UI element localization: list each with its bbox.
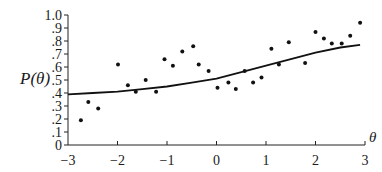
y-tick-label: .8 — [52, 34, 63, 49]
data-point — [322, 36, 326, 40]
data-point — [86, 100, 90, 104]
data-point — [330, 42, 334, 46]
data-point — [154, 90, 158, 94]
data-point — [314, 30, 318, 34]
x-tick-label: −1 — [160, 153, 175, 168]
data-point — [134, 90, 138, 94]
data-point — [340, 42, 344, 46]
data-point — [234, 87, 238, 91]
x-axis-label: θ — [369, 129, 377, 145]
data-point — [243, 69, 247, 73]
data-point — [96, 107, 100, 111]
y-tick-label: .9 — [52, 21, 63, 36]
y-tick-label: 1.0 — [45, 8, 63, 23]
y-tick-label: .7 — [52, 47, 63, 62]
data-point — [180, 49, 184, 53]
item-characteristic-chart: 0.1.2.3.4.5.6.7.8.91.0−3−2−10123θ — [0, 0, 382, 172]
data-point — [207, 69, 211, 73]
y-tick-label: .2 — [52, 112, 63, 127]
data-point — [197, 62, 201, 66]
x-tick-label: −3 — [61, 153, 76, 168]
x-tick-label: −2 — [110, 153, 125, 168]
x-tick-label: 0 — [213, 153, 220, 168]
data-point — [144, 78, 148, 82]
y-axis-label: P(θ) — [20, 69, 50, 89]
data-point — [191, 44, 195, 48]
data-point — [171, 64, 175, 68]
icc-curve — [68, 45, 360, 94]
x-tick-label: 2 — [312, 153, 319, 168]
data-point — [358, 21, 362, 25]
data-point — [126, 83, 130, 87]
y-tick-label: .1 — [52, 125, 63, 140]
chart-canvas: 0.1.2.3.4.5.6.7.8.91.0−3−2−10123θ — [0, 0, 382, 172]
y-tick-label: .4 — [52, 86, 63, 101]
data-point — [216, 86, 220, 90]
data-point — [348, 34, 352, 38]
data-point — [226, 81, 230, 85]
data-point — [269, 47, 273, 51]
y-tick-label: .5 — [52, 73, 63, 88]
data-point — [79, 118, 83, 122]
data-point — [163, 57, 167, 61]
x-tick-label: 1 — [263, 153, 270, 168]
y-tick-label: 0 — [55, 138, 62, 153]
x-tick-label: 3 — [362, 153, 369, 168]
data-point — [260, 75, 264, 79]
data-point — [287, 40, 291, 44]
data-point — [116, 62, 120, 66]
data-point — [251, 81, 255, 85]
y-tick-label: .3 — [52, 99, 63, 114]
y-tick-label: .6 — [52, 60, 63, 75]
data-point — [277, 62, 281, 66]
data-point — [303, 61, 307, 65]
